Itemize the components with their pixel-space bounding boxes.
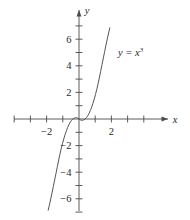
y-tick-label-neg4: −4 xyxy=(60,167,72,178)
y-axis-label: y xyxy=(84,5,90,16)
curve-equation-exponent: 3 xyxy=(139,46,144,54)
x-tick-labels: −2 2 xyxy=(41,126,114,137)
y-tick-label-neg2: −2 xyxy=(60,140,71,151)
y-tick-label-2: 2 xyxy=(66,87,71,98)
x-axis-label: x xyxy=(172,114,178,125)
curve-equation-base: y = x xyxy=(117,47,140,58)
x-tick-label-2: 2 xyxy=(109,126,114,137)
y-tick-label-4: 4 xyxy=(66,60,72,71)
plot-canvas: −2 2 6 4 2 −2 −4 −6 x y y = x3 xyxy=(0,0,190,220)
x-tick-label-neg2: −2 xyxy=(41,126,52,137)
y-tick-label-6: 6 xyxy=(66,34,71,45)
x-axis-arrowhead xyxy=(162,117,169,122)
y-axis-arrowhead xyxy=(77,10,82,17)
curve-equation-label: y = x3 xyxy=(117,46,144,58)
axes-group xyxy=(14,10,168,211)
y-tick-label-neg6: −6 xyxy=(60,193,71,204)
cubic-function-figure: −2 2 6 4 2 −2 −4 −6 x y y = x3 xyxy=(0,0,190,220)
